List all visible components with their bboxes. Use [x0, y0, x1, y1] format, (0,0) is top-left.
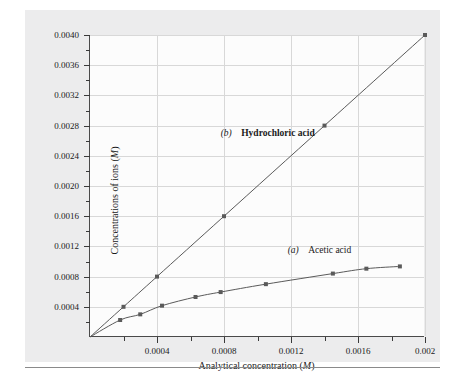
y-tick-label: 0.0012	[54, 241, 79, 251]
y-tick-label: 0.0020	[54, 181, 79, 191]
data-point-marker	[122, 305, 126, 309]
x-tick-label: 0.0004	[145, 346, 170, 356]
series-label-hydrochloric-acid: (b) Hydrochloric acid	[221, 128, 315, 138]
x-tick-label: 0.0008	[212, 346, 237, 356]
plot-area: (b) Hydrochloric acid (a) Acetic acid 0.…	[89, 35, 424, 337]
data-point-marker	[423, 33, 427, 37]
y-tick-label: 0.0024	[54, 151, 79, 161]
y-tick-label: 0.0016	[54, 211, 79, 221]
data-point-marker	[331, 272, 335, 276]
curve-acetic-acid	[90, 266, 400, 337]
y-tick-label: 0.0008	[54, 272, 79, 282]
data-point-marker	[155, 275, 159, 279]
data-point-marker	[264, 282, 268, 286]
series-name: Acetic acid	[308, 245, 351, 255]
x-tick-major	[224, 337, 225, 343]
data-point-marker	[323, 124, 327, 128]
x-tick-minor	[124, 337, 125, 341]
data-point-marker	[219, 290, 223, 294]
x-tick-label: 0.002	[415, 346, 435, 356]
x-axis-title: Analytical concentration (M)	[89, 360, 424, 371]
series-letter: (a)	[288, 245, 299, 255]
y-tick-label: 0.0004	[54, 302, 79, 312]
figure-page: (b) Hydrochloric acid (a) Acetic acid 0.…	[0, 0, 461, 391]
x-tick-major	[358, 337, 359, 343]
x-tick-minor	[392, 337, 393, 341]
unit-molarity-symbol: M	[303, 360, 311, 371]
data-point-marker	[364, 267, 368, 271]
y-axis-title: Concentrations of ions (M)	[109, 111, 120, 291]
x-tick-major	[157, 337, 158, 343]
y-tick-label: 0.0036	[54, 60, 79, 70]
x-tick-label: 0.0012	[279, 346, 304, 356]
y-tick-label: 0.0028	[54, 121, 79, 131]
gridline-vertical	[425, 35, 426, 336]
series-name: Hydrochloric acid	[241, 128, 314, 138]
x-tick-major	[291, 337, 292, 343]
x-tick-label: 0.0016	[346, 346, 371, 356]
bottom-divider-rule	[25, 367, 440, 368]
data-point-marker	[398, 264, 402, 268]
series-letter: (b)	[221, 128, 232, 138]
series-label-acetic-acid: (a) Acetic acid	[288, 245, 352, 255]
data-point-marker	[138, 312, 142, 316]
unit-molarity-symbol: M	[109, 150, 120, 158]
curve-layer	[90, 35, 425, 337]
x-tick-major	[425, 337, 426, 343]
data-point-marker	[194, 295, 198, 299]
x-tick-minor	[325, 337, 326, 341]
data-point-marker	[222, 214, 226, 218]
data-point-marker	[118, 318, 122, 322]
x-tick-minor	[258, 337, 259, 341]
y-tick-label: 0.0032	[54, 90, 79, 100]
y-tick-label: 0.0040	[54, 30, 79, 40]
curve-hydrochloric-acid	[90, 35, 425, 337]
data-point-marker	[160, 304, 164, 308]
x-tick-minor	[191, 337, 192, 341]
